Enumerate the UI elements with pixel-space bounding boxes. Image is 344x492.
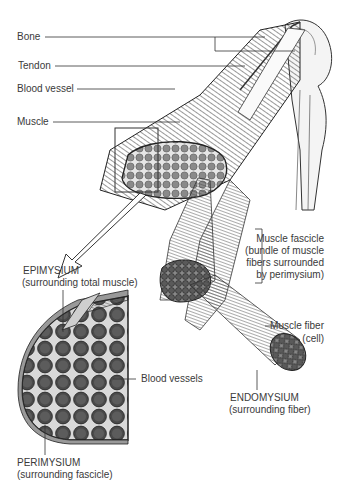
label-muscle-fiber: Muscle fiber [270,320,324,332]
label-tendon: Tendon [18,60,51,72]
label-muscle-fiber-desc: (cell) [302,333,324,345]
label-bone: Bone [17,31,40,43]
label-muscle-fascicle-line4: by perimysium) [256,269,324,281]
label-muscle-fascicle: Muscle fascicle [256,233,324,245]
label-endomysium-desc: (surrounding fiber) [229,404,311,416]
muscle-anatomy-diagram: Bone Tendon Blood vessel Muscle EPIMYSIU… [0,0,344,492]
label-epimysium-desc: (surrounding total muscle) [22,277,138,289]
label-blood-vessels: Blood vessels [141,373,203,385]
label-muscle-fascicle-line3: fibers surrounded [246,257,324,269]
label-perimysium: PERIMYSIUM [17,457,80,469]
label-muscle: Muscle [17,116,49,128]
label-muscle-fascicle-line2: (bundle of muscle [245,245,324,257]
label-perimysium-desc: (surrounding fascicle) [17,469,113,481]
magnified-cross-section [18,290,128,444]
label-epimysium: EPIMYSIUM [23,265,79,277]
muscle-cross-section [122,142,227,199]
label-blood-vessel: Blood vessel [17,83,74,95]
label-endomysium: ENDOMYSIUM [230,392,299,404]
